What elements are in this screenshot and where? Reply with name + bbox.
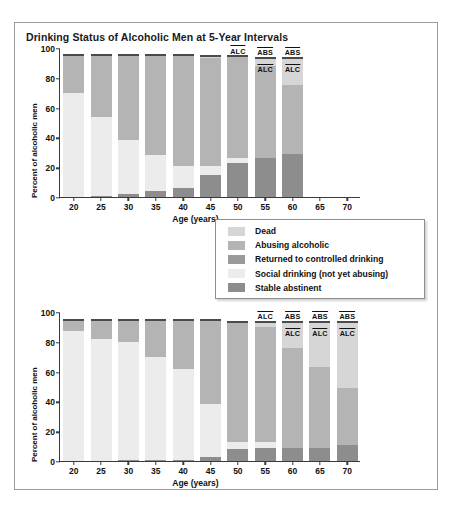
bar-stack [255, 321, 276, 461]
bar-top-rule [63, 319, 84, 321]
x-axis-tick-mark [237, 197, 238, 201]
x-axis-tick-mark [210, 197, 211, 201]
x-axis-tick-label: 70 [343, 202, 352, 212]
x-axis-tick-mark [73, 197, 74, 201]
bar-segment [200, 404, 221, 456]
y-axis-tick-mark [56, 108, 60, 109]
bar-segment [337, 388, 358, 445]
bar-segment [227, 321, 248, 442]
y-axis-tick-label: 100 [41, 44, 55, 54]
x-axis-tick-label: 70 [343, 466, 352, 476]
x-axis-tick-label: 60 [288, 466, 297, 476]
y-axis-tick-label: 100 [41, 308, 55, 318]
bar-segment [282, 448, 303, 461]
y-axis-tick-mark [56, 461, 60, 462]
bar-stack [227, 321, 248, 461]
bar-segment [200, 58, 221, 165]
bar-stack [200, 55, 221, 197]
x-axis-tick-label: 65 [315, 202, 324, 212]
bar-segment [63, 54, 84, 93]
x-axis-tick-label: 50 [233, 466, 242, 476]
bar-segment [118, 342, 139, 460]
bar-segment [200, 166, 221, 175]
legend-item: Stable abstinent [216, 281, 424, 295]
bar-segment [282, 348, 303, 448]
x-axis-tick-label: 25 [96, 466, 105, 476]
y-axis-tick-mark [56, 402, 60, 403]
bar-segment [118, 319, 139, 341]
y-axis-tick-label: 80 [46, 74, 55, 84]
bar-top-rule [227, 321, 248, 323]
bar-top-rule [91, 54, 112, 56]
bar-annotation: ABS [339, 311, 355, 322]
x-axis-label: Age (years) [172, 214, 218, 224]
x-axis-tick-mark [265, 197, 266, 201]
bar-segment [173, 188, 194, 197]
bar-segment [173, 369, 194, 460]
x-axis-tick-label: 60 [288, 202, 297, 212]
bar-stack [91, 54, 112, 197]
chart-legend: DeadAbusing alcoholicReturned to control… [215, 219, 425, 299]
x-axis-tick-mark [128, 197, 129, 201]
bar-segment [227, 158, 248, 162]
bar-segment [282, 154, 303, 197]
bar-stack [227, 55, 248, 197]
bar-annotation: ALC [312, 328, 327, 339]
x-axis-tick-mark [292, 197, 293, 201]
bar-segment [227, 449, 248, 461]
bar-segment [200, 319, 221, 404]
x-axis-tick-label: 35 [151, 466, 160, 476]
bar-segment [173, 460, 194, 461]
bottom-chart-panel: Percent of alcoholic men0204060801002025… [15, 305, 439, 495]
bar-segment [200, 457, 221, 461]
x-axis-tick-mark [210, 461, 211, 465]
bar-segment [91, 319, 112, 338]
x-axis-tick-label: 50 [233, 202, 242, 212]
bar-annotation: ALC [285, 64, 300, 75]
bar-top-rule [145, 319, 166, 321]
legend-item: Returned to controlled drinking [216, 252, 424, 266]
x-axis-tick-label: 30 [124, 202, 133, 212]
x-axis-tick-mark [128, 461, 129, 465]
bar-stack [118, 54, 139, 197]
bar-annotation: ABS [312, 311, 328, 322]
x-axis-tick-mark [100, 461, 101, 465]
bar-top-rule [173, 54, 194, 56]
bar-segment [227, 163, 248, 197]
bar-stack [309, 321, 330, 461]
bar-segment [173, 319, 194, 368]
x-axis-label: Age (years) [172, 478, 218, 488]
y-axis-tick-label: 60 [46, 104, 55, 114]
bar-segment [145, 54, 166, 155]
bar-segment [200, 175, 221, 197]
legend-label: Dead [255, 226, 276, 236]
x-axis-tick-label: 30 [124, 466, 133, 476]
bar-stack [282, 57, 303, 197]
bar-segment [337, 445, 358, 461]
x-axis-tick-label: 25 [96, 202, 105, 212]
x-axis-tick-label: 20 [69, 466, 78, 476]
y-axis-tick-label: 0 [50, 457, 55, 467]
bar-annotation: ALC [340, 328, 355, 339]
legend-item: Abusing alcoholic [216, 238, 424, 252]
bar-segment [91, 117, 112, 196]
bar-stack [282, 321, 303, 461]
bar-top-rule [173, 319, 194, 321]
x-axis-tick-label: 20 [69, 202, 78, 212]
bar-annotation: ABS [257, 47, 273, 58]
legend-swatch [228, 255, 245, 264]
legend-label: Abusing alcoholic [255, 240, 329, 250]
bar-segment [173, 166, 194, 188]
bar-segment [63, 331, 84, 461]
bar-stack [337, 321, 358, 461]
y-axis-tick-label: 60 [46, 368, 55, 378]
bar-stack [118, 319, 139, 461]
y-axis-tick-label: 40 [46, 397, 55, 407]
legend-swatch [228, 241, 245, 250]
y-axis-tick-mark [56, 372, 60, 373]
x-axis-tick-label: 45 [206, 202, 215, 212]
legend-label: Stable abstinent [255, 283, 321, 293]
x-axis-tick-mark [182, 197, 183, 201]
y-axis-tick-mark [56, 138, 60, 139]
bar-segment [227, 55, 248, 158]
